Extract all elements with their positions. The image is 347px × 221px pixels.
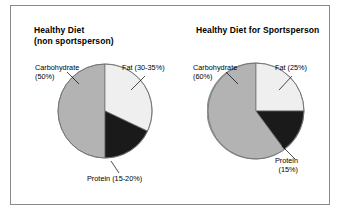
- leader-line-fat-right: [279, 76, 292, 90]
- pie-label-carbohydrate-right: Carbohydrate (60%): [193, 63, 237, 81]
- chart-panel-right: Healthy Diet for Sportsperson Carbohydra…: [176, 6, 331, 204]
- pie-label-protein-left: Protein (15-20%): [87, 174, 142, 183]
- figure-frame: Healthy Diet (non sportsperson) Carbohyd…: [10, 5, 330, 205]
- leader-line-protein-left: [111, 161, 119, 173]
- leader-lines-right: [176, 6, 331, 206]
- leader-line-fat-left: [131, 76, 145, 90]
- chart-panel-left: Healthy Diet (non sportsperson) Carbohyd…: [11, 6, 176, 204]
- pie-label-protein-right: Protein (15%): [258, 156, 298, 174]
- pie-label-carbohydrate-left: Carbohydrate (50%): [35, 63, 79, 81]
- pie-label-fat-left: Fat (30-35%): [122, 63, 165, 72]
- pie-label-fat-right: Fat (25%): [275, 63, 307, 72]
